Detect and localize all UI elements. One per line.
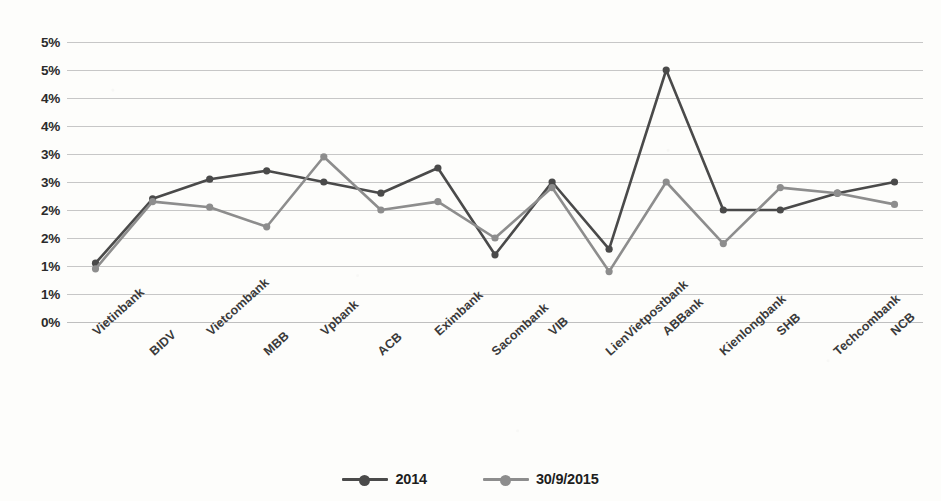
y-axis-tick-label: 3% (16, 147, 60, 162)
x-axis-label: ACB (375, 330, 405, 359)
line-chart: 5%5%4%4%3%3%2%2%1%1%0% VietinbankBIDVVie… (0, 0, 941, 501)
y-axis-tick-label: 0% (16, 315, 60, 330)
y-axis-tick-label: 5% (16, 35, 60, 50)
legend-label: 2014 (395, 471, 426, 487)
legend-swatch-icon (342, 472, 388, 486)
data-point-marker (549, 184, 556, 191)
data-point-marker (606, 268, 613, 275)
data-point-marker (491, 251, 498, 258)
y-axis-tick-label: 4% (16, 119, 60, 134)
x-axis-labels: VietinbankBIDVVietcombankMBBVpbankACBExi… (67, 322, 923, 442)
data-point-marker (149, 198, 156, 205)
data-point-marker (92, 265, 99, 272)
data-point-marker (377, 190, 384, 197)
data-point-marker (663, 178, 670, 185)
y-axis-tick-label: 4% (16, 91, 60, 106)
data-point-marker (720, 240, 727, 247)
legend-item-2014[interactable]: 2014 (342, 471, 426, 487)
y-axis-tick-label: 5% (16, 63, 60, 78)
x-axis-label: BIDV (147, 328, 179, 359)
data-point-marker (891, 178, 898, 185)
data-point-marker (434, 198, 441, 205)
y-axis-tick-label: 3% (16, 175, 60, 190)
data-point-marker (206, 176, 213, 183)
series-lines-group (67, 42, 923, 322)
data-point-marker (263, 223, 270, 230)
data-point-marker (777, 184, 784, 191)
series-line (96, 70, 895, 263)
data-point-marker (491, 234, 498, 241)
chart-legend: 201430/9/2015 (0, 471, 941, 487)
data-point-marker (377, 206, 384, 213)
data-point-marker (263, 167, 270, 174)
y-axis-tick-label: 2% (16, 203, 60, 218)
y-axis-tick-label: 1% (16, 259, 60, 274)
data-point-marker (434, 164, 441, 171)
data-point-marker (606, 246, 613, 253)
data-point-marker (777, 206, 784, 213)
y-axis-tick-label: 1% (16, 287, 60, 302)
legend-swatch-icon (483, 472, 529, 486)
legend-item-2015[interactable]: 30/9/2015 (483, 471, 599, 487)
y-axis-tick-label: 2% (16, 231, 60, 246)
x-axis-label: MBB (261, 329, 292, 359)
y-axis: 5%5%4%4%3%3%2%2%1%1%0% (8, 42, 60, 322)
data-point-marker (891, 201, 898, 208)
data-point-marker (320, 178, 327, 185)
legend-label: 30/9/2015 (536, 471, 599, 487)
data-point-marker (663, 66, 670, 73)
data-point-marker (320, 153, 327, 160)
data-point-marker (206, 204, 213, 211)
plot-area (67, 42, 923, 322)
data-point-marker (720, 206, 727, 213)
data-point-marker (834, 190, 841, 197)
